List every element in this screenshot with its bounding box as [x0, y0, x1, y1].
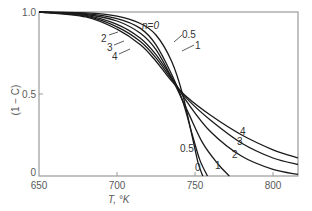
curve-label-2-right: 2 — [232, 149, 238, 160]
y-tick-label-1: 1.0 — [22, 7, 36, 18]
curve-label-n0: n=0 — [142, 20, 159, 31]
x-tick-label-750: 750 — [187, 180, 204, 191]
curve-label-3-right: 3 — [237, 136, 243, 147]
x-tick-label-800: 800 — [265, 180, 282, 191]
leader-line-4 — [119, 49, 130, 54]
curve-n-2 — [39, 12, 298, 174]
curve-label-0-bottom: 0 — [195, 162, 201, 173]
curve-label-1-bottom: 1 — [215, 160, 221, 171]
curve-n-3 — [39, 12, 298, 165]
chart: 1.0 0.5 0 650 700 750 800 T, °K (1 − C) … — [0, 0, 312, 211]
curve-n-4 — [39, 12, 298, 158]
curve-label-4-left: 4 — [112, 51, 118, 62]
curve-label-4-right: 4 — [240, 126, 246, 137]
plot-frame — [39, 12, 298, 176]
y-axis-title: (1 − C) — [10, 85, 21, 116]
y-tick-label-0: 0 — [30, 167, 36, 178]
curve-label-0.5-top: 0.5 — [182, 29, 196, 40]
leader-line-1 — [182, 45, 194, 51]
x-tick-label-700: 700 — [109, 180, 126, 191]
leader-line-2 — [109, 32, 118, 35]
leader-line-0.5 — [174, 35, 182, 42]
y-tick-label-0.5: 0.5 — [22, 89, 36, 100]
curve-label-1-top: 1 — [195, 40, 201, 51]
curve-n-0 — [39, 12, 203, 176]
curve-label-0.5-bottom: 0.5 — [180, 143, 194, 154]
curves-group — [39, 12, 298, 176]
x-axis-title: T, °K — [108, 194, 131, 205]
leader-line-3 — [114, 41, 124, 45]
x-tick-label-650: 650 — [31, 180, 48, 191]
